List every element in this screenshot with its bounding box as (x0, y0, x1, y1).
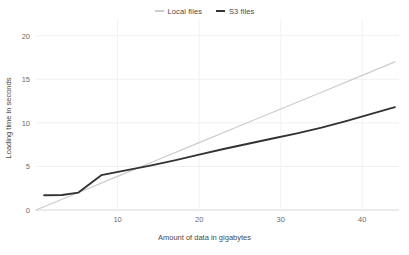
y-tick-label: 0 (26, 206, 30, 215)
x-tick-label: 30 (277, 215, 285, 224)
y-tick-label: 10 (22, 119, 30, 128)
series-line-local-files (36, 62, 395, 210)
x-axis-title: Amount of data in gigabytes (158, 233, 251, 242)
y-tick-label: 15 (22, 75, 30, 84)
y-tick-label: 20 (22, 32, 30, 41)
x-axis-tick-labels: 10203040 (113, 215, 366, 224)
x-tick-label: 10 (113, 215, 121, 224)
series-line-s3-files (44, 107, 395, 195)
gridlines (36, 19, 399, 210)
x-tick-label: 20 (195, 215, 203, 224)
y-axis-tick-labels: 05101520 (22, 32, 30, 215)
plot-area: 05101520 10203040 Amount of data in giga… (0, 0, 409, 255)
y-tick-label: 5 (26, 162, 30, 171)
line-chart: Local files S3 files 05101520 10203040 A… (0, 0, 409, 255)
x-tick-label: 40 (358, 215, 366, 224)
series-lines (36, 62, 395, 210)
y-axis-title: Loading time in seconds (4, 77, 13, 158)
